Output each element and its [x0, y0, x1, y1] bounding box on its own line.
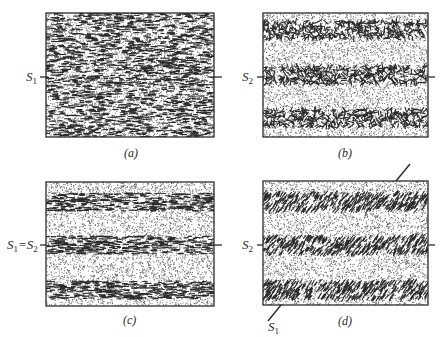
panel-d-s1-label: S1 [268, 319, 279, 336]
panel-d-s1-trace-top [396, 164, 410, 181]
panel-b-texture [261, 13, 429, 137]
schistosity-diagram: S1 (a) S2 (b) S1=S2 (c) S2 S1 (d) [0, 0, 444, 337]
panel-a-s1-label: S1 [26, 69, 37, 86]
panel-c-s1-s2-label: S1=S2 [7, 237, 38, 254]
panel-d: S2 S1 (d) [242, 164, 435, 336]
panel-a-caption: (a) [124, 146, 138, 160]
panel-d-caption: (d) [338, 314, 352, 328]
panel-b: S2 (b) [242, 13, 435, 160]
panel-d-s2-label: S2 [242, 237, 253, 254]
panel-a: S1 (a) [26, 13, 222, 160]
panel-b-s2-label: S2 [242, 69, 253, 86]
panel-b-caption: (b) [338, 146, 352, 160]
panel-c-caption: (c) [123, 313, 136, 327]
panel-c: S1=S2 (c) [7, 182, 222, 327]
panel-a-texture [43, 13, 216, 137]
panel-d-texture [262, 181, 430, 305]
panel-c-texture [44, 182, 216, 306]
